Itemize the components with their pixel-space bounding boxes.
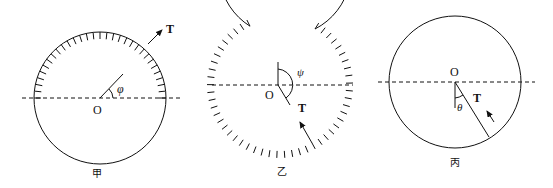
hatch-mark [234,29,239,34]
hatch-mark [345,75,352,76]
hatch-mark [156,78,163,80]
figure-bing: θ O T 丙 [378,16,535,168]
hatch-mark [211,61,218,63]
hatch-mark [51,54,56,59]
hatch-mark [269,150,270,157]
tension-label-t: T [473,91,481,105]
hatch-mark [345,98,352,99]
hatch-mark [228,34,233,39]
hatch-mark [151,65,157,69]
tension-arrow-bing [487,111,494,122]
caption-jia: 甲 [92,168,102,179]
hatch-mark [222,125,228,129]
hatch-mark [112,33,113,40]
hatch-mark [321,28,325,34]
hatch-mark [211,106,218,108]
hatch-mark [154,71,160,74]
diagram-stage: φ O T 甲 ψ O T 乙 θ O T 丙 [0,0,553,188]
caption-bing: 丙 [450,157,460,168]
angle-label-theta: θ [457,101,463,113]
angle-arc-phi [109,89,113,98]
hatch-mark [144,54,149,59]
hatch-mark [261,149,263,156]
hatch-mark [214,54,220,57]
hatch-mark [341,111,347,114]
hatch-mark [208,77,215,78]
radius-line-yi [278,85,290,105]
hatch-mark [80,35,82,42]
hatch-mark [326,33,331,38]
hatch-mark [56,49,61,54]
hatch-mark [240,24,244,30]
hatch-mark [130,41,134,47]
hatch-mark [140,49,145,54]
hatch-mark [312,143,315,149]
hatch-mark [342,60,349,62]
hatch-mark [344,67,351,69]
hatch-mark [324,135,329,140]
hatch-mark [93,32,94,39]
hatch-mark [37,78,44,80]
figure-yi: ψ O T 乙 [207,0,353,177]
hatch-mark [135,45,139,51]
hatch-mark [227,131,232,136]
hatch-mark [148,59,154,63]
hatch-mark [214,113,220,116]
hatch-mark [284,151,285,158]
hatch-mark [43,65,49,69]
hatch-mark [159,91,166,92]
hatch-mark [218,119,224,123]
figures-svg: φ O T 甲 ψ O T 乙 θ O T 丙 [0,0,553,188]
hatch-mark [124,38,127,44]
hatch-mark [218,47,224,51]
hatch-mark [61,45,65,51]
tension-label-t: T [166,22,174,36]
center-label-o: O [93,103,102,117]
angle-label-phi: φ [117,82,124,96]
hatch-mark [35,84,42,85]
center-label-o: O [265,88,274,102]
hatch-mark [239,140,243,146]
tension-label-t: T [298,101,306,115]
hatch-mark [346,90,353,91]
hatch-mark [47,59,53,63]
hatch-mark [209,69,216,71]
hatch-mark [329,129,334,134]
hatch-mark [67,41,71,47]
tension-arrow-jia [148,30,162,44]
hatch-mark [292,150,293,157]
hatch-mark [233,136,238,141]
angle-label-psi: ψ [297,66,304,78]
hatch-mark [106,32,107,39]
hatch-mark [318,139,322,145]
center-label-o: O [450,65,459,79]
hatch-mark [158,84,165,85]
hatch-mark [337,118,343,122]
hatch-mark [331,39,336,43]
hatch-mark [246,144,249,150]
hatch-mark [222,40,228,44]
tension-arrow-yi [300,122,312,143]
hatch-mark [254,147,257,154]
hatch-mark [86,33,87,40]
hatch-mark [299,148,301,155]
caption-yi: 乙 [277,166,287,177]
hatch-mark [343,105,350,107]
hatch-mark [333,124,339,128]
hatch-mark [305,146,308,153]
hatch-marks-jia [34,32,166,98]
hatch-mark [335,45,341,49]
circle-arc-yi [219,0,351,29]
hatch-mark [209,99,216,101]
hatch-mark [40,71,46,74]
hatch-mark [339,52,345,55]
angle-arc-psi [278,69,293,98]
hatch-mark [34,91,41,92]
hatch-mark [73,38,76,44]
hatch-mark [207,92,214,93]
figure-jia: φ O T 甲 [22,22,180,179]
hatch-mark [118,35,120,42]
angle-arc-theta [455,95,463,98]
